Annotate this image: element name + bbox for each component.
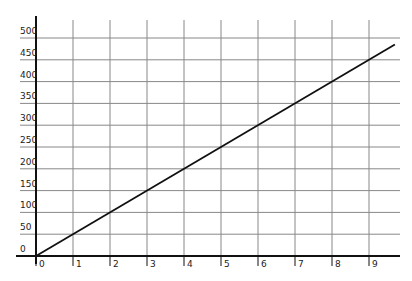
y-tick-label: 350 [20,91,37,101]
x-tick-label: 1 [76,259,82,269]
x-tick-label: 7 [298,259,304,269]
x-tick-label: 0 [39,259,45,269]
y-tick-label: 100 [20,200,37,210]
y-tick-label: 450 [20,48,37,58]
y-tick-label: 50 [20,222,32,232]
y-tick-label: 500 [20,26,37,36]
data-line [36,45,395,256]
y-tick-label: 150 [20,179,37,189]
x-tick-label: 3 [150,259,156,269]
y-tick-label: 0 [20,244,26,254]
x-tick-label: 9 [372,259,378,269]
x-tick-label: 6 [261,259,267,269]
y-tick-label: 300 [20,113,37,123]
x-tick-label: 4 [187,259,193,269]
y-tick-label: 200 [20,157,37,167]
line-chart: 0123456789050100150200250300350400450500 [0,0,412,281]
x-tick-label: 2 [113,259,119,269]
x-tick-label: 8 [335,259,341,269]
y-tick-label: 400 [20,70,37,80]
y-tick-label: 250 [20,135,37,145]
x-tick-label: 5 [224,259,230,269]
